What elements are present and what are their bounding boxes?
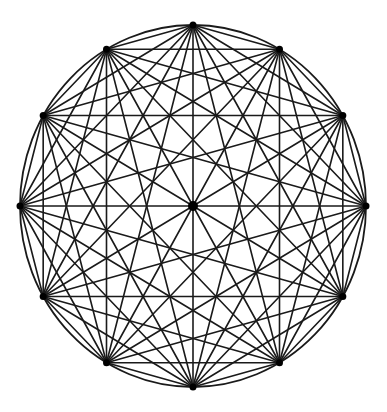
- edge-line: [20, 49, 280, 206]
- vertex-dot: [276, 46, 283, 53]
- edge-line: [107, 49, 343, 296]
- complete-graph-diagram: [0, 0, 387, 412]
- vertex-dot: [190, 384, 197, 391]
- vertex-dot: [103, 46, 110, 53]
- edge-line: [107, 206, 367, 363]
- edge-line: [343, 116, 366, 207]
- edge-line: [280, 206, 367, 363]
- vertex-dot: [103, 359, 110, 366]
- edge-line: [193, 363, 280, 387]
- vertex-dot: [190, 22, 197, 29]
- vertex-dot: [40, 293, 47, 300]
- edge-line: [193, 297, 343, 388]
- vertex-dot: [363, 203, 370, 210]
- center-dot: [188, 201, 198, 211]
- edge-line: [20, 116, 43, 207]
- edge-line: [43, 116, 279, 363]
- edge-line: [193, 116, 343, 388]
- edge-line: [343, 206, 366, 297]
- vertex-dot: [276, 359, 283, 366]
- edge-line: [107, 116, 343, 363]
- vertex-dot: [339, 293, 346, 300]
- vertex-dot: [40, 112, 47, 119]
- vertex-dot: [339, 112, 346, 119]
- edge-line: [107, 25, 194, 49]
- edge-line: [280, 49, 367, 206]
- edge-line: [107, 363, 194, 387]
- edge-line: [43, 49, 279, 296]
- vertex-dot: [17, 203, 24, 210]
- edge-line: [20, 206, 43, 297]
- edge-line: [193, 25, 280, 49]
